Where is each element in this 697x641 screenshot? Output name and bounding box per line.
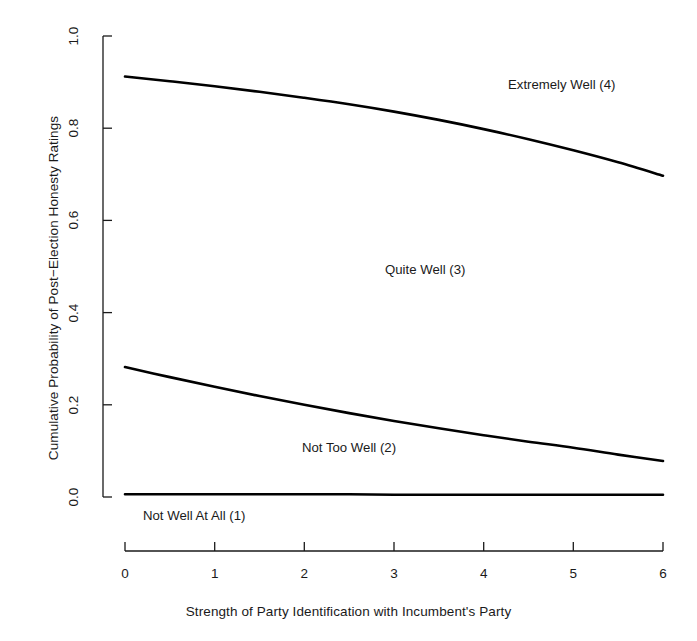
data-curves (125, 77, 663, 495)
y-tick-label-0.2: 0.2 (67, 385, 81, 425)
y-axis-title: Cumulative Probability of Post−Election … (46, 28, 61, 548)
annotation-extremely-well: Extremely Well (4) (508, 77, 615, 92)
x-tick-label-4: 4 (469, 566, 499, 581)
annotation-quite-well: Quite Well (3) (385, 262, 465, 277)
y-tick-label-1.0: 1.0 (67, 16, 81, 56)
x-axis (125, 542, 663, 551)
plot-area (0, 0, 697, 641)
x-tick-label-5: 5 (558, 566, 588, 581)
x-tick-label-0: 0 (110, 566, 140, 581)
y-tick-label-0.6: 0.6 (67, 200, 81, 240)
y-axis (103, 36, 112, 497)
y-tick-label-0.4: 0.4 (67, 293, 81, 333)
annotation-not-too-well: Not Too Well (2) (302, 440, 396, 455)
x-axis-title: Strength of Party Identification with In… (0, 604, 697, 619)
x-tick-label-2: 2 (289, 566, 319, 581)
x-tick-label-3: 3 (379, 566, 409, 581)
y-tick-label-0.8: 0.8 (67, 108, 81, 148)
x-tick-label-6: 6 (648, 566, 678, 581)
x-tick-label-1: 1 (200, 566, 230, 581)
curve-not-well-at-all (125, 494, 663, 495)
y-tick-label-0.0: 0.0 (67, 477, 81, 517)
chart-figure: 1.0 0.8 0.6 0.4 0.2 0.0 0 1 2 3 4 5 6 St… (0, 0, 697, 641)
annotation-not-well-at-all: Not Well At All (1) (143, 508, 245, 523)
